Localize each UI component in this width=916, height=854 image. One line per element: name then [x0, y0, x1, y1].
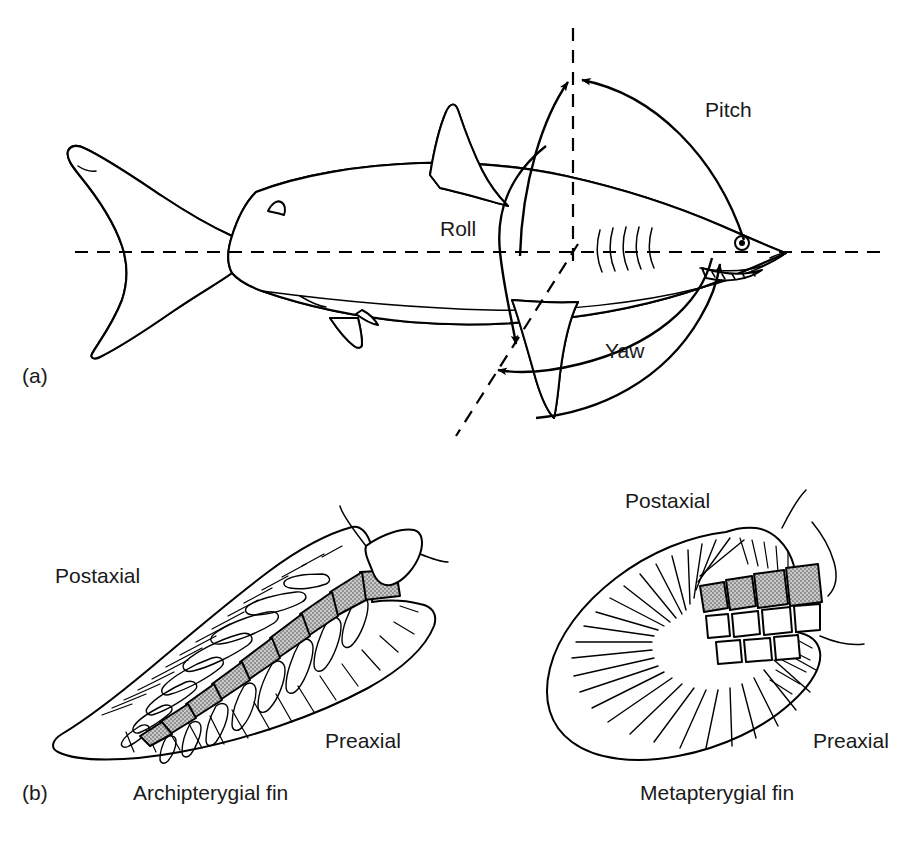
radial-element-2 — [732, 611, 760, 637]
panel-a-letter: (a) — [22, 364, 48, 387]
archipterygial-preaxial-label: Preaxial — [325, 729, 401, 752]
archipterygial-fin-caption: Archipterygial fin — [133, 781, 288, 804]
radial-element-7 — [774, 635, 800, 660]
figure-canvas: Roll Pitch Yaw (a) — [0, 0, 916, 854]
yaw-label: Yaw — [605, 339, 645, 362]
metapterygial-postaxial-label: Postaxial — [625, 489, 710, 512]
eye-pupil — [739, 240, 745, 246]
radial-element-6 — [744, 638, 772, 662]
basal-element-4 — [786, 564, 822, 606]
roll-label: Roll — [440, 217, 476, 240]
figure-root: Roll Pitch Yaw (a) — [0, 0, 916, 854]
basal-element-3 — [754, 570, 788, 608]
radial-element-1 — [706, 614, 730, 638]
metapterygial-preaxial-label: Preaxial — [813, 729, 889, 752]
radial-element-3 — [762, 607, 792, 635]
basal-element-2 — [726, 576, 756, 610]
radial-element-4 — [794, 604, 820, 632]
metapterygial-fin-caption: Metapterygial fin — [640, 781, 794, 804]
pitch-label: Pitch — [705, 98, 752, 121]
panel-b-letter: (b) — [22, 781, 48, 804]
basal-element-1 — [700, 582, 728, 612]
archipterygial-postaxial-label: Postaxial — [55, 564, 140, 587]
radial-element-5 — [716, 640, 742, 664]
